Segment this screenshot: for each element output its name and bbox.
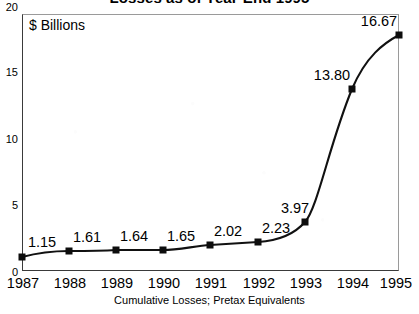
data-point-1991 [207,242,214,249]
data-point-1989 [113,247,120,254]
x-tick-label-1993: 1993 [290,275,322,291]
data-label-1995: 16.67 [361,13,397,29]
data-point-1987 [19,254,26,261]
data-point-1993 [302,219,309,226]
x-tick-label-1989: 1989 [101,275,133,291]
y-tick-label-15: 15 [0,66,18,78]
x-tick-label-1992: 1992 [243,275,275,291]
data-point-1994 [349,86,356,93]
y-tick-label-20: 20 [0,1,18,13]
data-label-1989: 1.64 [120,228,148,244]
x-tick-label-1995: 1995 [380,275,412,291]
data-label-1990: 1.65 [167,228,195,244]
data-point-1995 [396,32,403,39]
y-tick-label-10: 10 [0,133,18,145]
data-point-1988 [66,248,73,255]
chart-title: Losses as of Year-End 1995 [0,0,419,6]
y-axis-unit-label: $ Billions [29,17,85,33]
x-tick-label-1990: 1990 [148,275,180,291]
x-axis-caption: Cumulative Losses; Pretax Equivalents [0,294,419,306]
chart-screenshot: Losses as of Year-End 1995 $ Billions 0 … [0,0,419,314]
data-label-1987: 1.15 [28,234,56,250]
data-label-1993: 3.97 [281,200,309,216]
x-tick-label-1987: 1987 [7,275,39,291]
data-point-1992 [255,239,262,246]
data-label-1991: 2.02 [214,223,242,239]
data-label-1994: 13.80 [314,67,350,83]
x-tick-label-1991: 1991 [195,275,227,291]
x-tick-label-1988: 1988 [54,275,86,291]
data-label-1988: 1.61 [73,229,101,245]
y-tick-label-5: 5 [0,199,18,211]
data-point-1990 [160,247,167,254]
x-tick-label-1994: 1994 [337,275,369,291]
data-label-1992: 2.23 [262,220,290,236]
